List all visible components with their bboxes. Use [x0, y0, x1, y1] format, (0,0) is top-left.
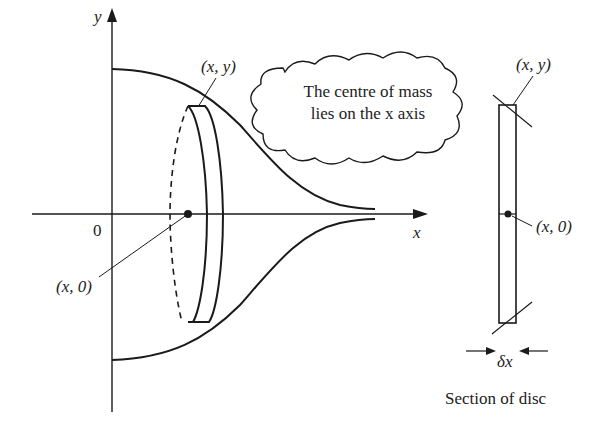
point-top-label: (x, y) — [201, 58, 236, 75]
y-axis-arrow-icon — [107, 8, 117, 22]
section-center-point — [505, 211, 512, 218]
x-axis-arrow-icon — [413, 209, 428, 219]
section-point-center-label: (x, 0) — [536, 218, 572, 235]
arrow-right-icon — [486, 347, 496, 355]
arrow-left-icon — [519, 347, 529, 355]
origin-label: 0 — [93, 222, 102, 239]
callout-text: The centre of mass lies on the x axis — [268, 81, 468, 125]
x-axis-label: x — [413, 224, 421, 241]
section-slope-bottom — [492, 302, 532, 334]
width-label: δx — [497, 353, 512, 370]
section-caption: Section of disc — [445, 390, 546, 407]
point-center-label: (x, 0) — [56, 278, 92, 295]
callout-line-1: The centre of mass — [268, 81, 468, 103]
section-leader-top — [513, 76, 533, 105]
y-axis-label: y — [94, 8, 102, 25]
section-leader-center — [512, 216, 532, 226]
section-point-top-label: (x, y) — [516, 56, 551, 73]
callout-line-2: lies on the x axis — [268, 103, 468, 125]
